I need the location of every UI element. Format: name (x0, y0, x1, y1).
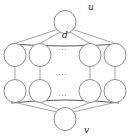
ellipsis-row-bottom: ... (58, 90, 67, 98)
edge-b4-v (73, 103, 115, 113)
node-b3 (79, 80, 101, 103)
node-b1 (4, 80, 26, 103)
node-b2 (29, 80, 51, 103)
graph-diagram: u d v ... ... ... (0, 0, 129, 139)
ellipsis-row-top: ... (58, 44, 67, 52)
label-node-v: v (84, 126, 89, 135)
label-node-u: u (88, 3, 94, 12)
node-a4 (104, 44, 126, 67)
arc-lower (11, 100, 119, 103)
ellipsis-row-middle: ... (58, 69, 67, 77)
node-a2 (29, 44, 51, 67)
node-b4 (104, 80, 126, 103)
node-a3 (79, 44, 101, 67)
edge-b1-v (15, 103, 57, 113)
node-a1 (4, 44, 26, 67)
label-arc-d: d (62, 31, 68, 40)
edge-u-a1 (15, 30, 57, 44)
edge-u-a4 (73, 30, 115, 44)
node-v (54, 108, 76, 131)
